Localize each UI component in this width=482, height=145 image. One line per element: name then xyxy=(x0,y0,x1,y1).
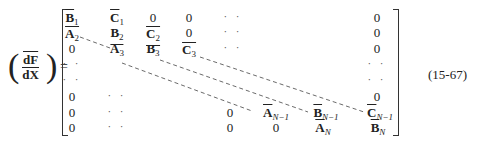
cell-r3c5: · · xyxy=(223,40,242,54)
cell-r3c8: 0 xyxy=(374,42,381,56)
cell-B-N: BN xyxy=(371,121,386,139)
cell-r8c2: · · xyxy=(107,119,126,133)
cell-A-N: AN xyxy=(315,121,330,139)
cell-C3: C3 xyxy=(182,42,196,61)
cell-r3c1: 0 xyxy=(69,42,76,56)
cell-r1c4: 0 xyxy=(186,11,193,25)
cell-r2c5: · · xyxy=(223,24,242,38)
equation-number: (15-67) xyxy=(428,67,467,83)
cell-r2c8: 0 xyxy=(374,26,381,40)
cell-r8c1: 0 xyxy=(69,121,76,135)
cell-A3: A3 xyxy=(110,42,124,60)
cell-r5c1: · · xyxy=(62,72,81,86)
cell-B3: B3 xyxy=(146,42,159,60)
cell-r8c6: 0 xyxy=(273,121,280,135)
cell-r7c5: 0 xyxy=(227,106,234,120)
cell-r4c1: · · xyxy=(62,56,81,70)
cell-r2c4: 0 xyxy=(186,26,193,40)
cell-r7c2: · · xyxy=(107,104,126,118)
cell-r6c2: · · xyxy=(107,88,126,102)
cell-r1c3: 0 xyxy=(150,11,157,25)
cell-r5c8: · · xyxy=(367,72,386,86)
cell-r1c5: · · xyxy=(223,9,242,23)
cell-r6c1: 0 xyxy=(69,90,76,104)
cell-r1c8: 0 xyxy=(374,11,381,25)
cell-r7c1: 0 xyxy=(69,106,76,120)
cell-r4c8: · · xyxy=(367,56,386,70)
cell-r6c8: 0 xyxy=(374,90,381,104)
cell-r8c5: 0 xyxy=(227,121,234,135)
